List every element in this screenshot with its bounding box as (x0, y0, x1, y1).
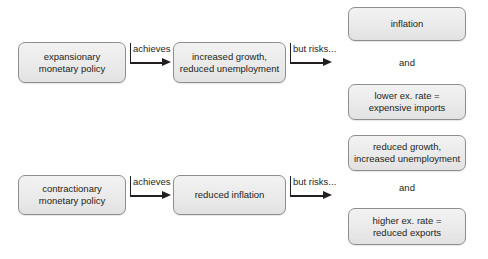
node-increased-growth-reduced-unemployment[interactable]: increased growth, reduced unemployment (173, 42, 286, 83)
node-reduced-inflation[interactable]: reduced inflation (173, 175, 286, 215)
node-label: reduced growth, increased unemployment (354, 141, 460, 165)
node-expansionary-monetary-policy[interactable]: expansionary monetary policy (18, 42, 126, 83)
node-reduced-growth-increased-unemployment[interactable]: reduced growth, increased unemployment (348, 135, 466, 171)
node-label: lower ex. rate = expensive imports (369, 90, 446, 114)
arrow-expansionary-to-outcome (130, 43, 174, 65)
arrow-contractionary-to-risks (290, 176, 335, 198)
arrow-expansionary-to-risks (290, 43, 335, 65)
arrow-contractionary-to-outcome (130, 176, 174, 198)
node-label: higher ex. rate = reduced exports (373, 215, 442, 239)
node-label: inflation (391, 18, 424, 30)
node-lower-exchange-rate-expensive-imports[interactable]: lower ex. rate = expensive imports (348, 84, 466, 120)
node-label: contractionary monetary policy (39, 183, 106, 207)
conjunction-and-expansionary: and (348, 57, 466, 68)
conjunction-and-contractionary: and (348, 182, 466, 193)
node-label: increased growth, reduced unemployment (180, 51, 279, 75)
node-label: reduced inflation (195, 189, 265, 201)
node-higher-exchange-rate-reduced-exports[interactable]: higher ex. rate = reduced exports (348, 208, 466, 245)
node-label: expansionary monetary policy (39, 51, 106, 75)
node-inflation[interactable]: inflation (348, 7, 466, 41)
node-contractionary-monetary-policy[interactable]: contractionary monetary policy (18, 175, 126, 215)
monetary-policy-diagram: expansionary monetary policy achieves in… (0, 0, 488, 259)
